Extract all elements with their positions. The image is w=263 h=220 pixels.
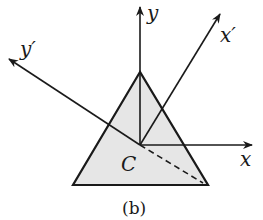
label-x-prime: x′ — [220, 23, 236, 47]
label-y-prime: y′ — [19, 37, 36, 61]
label-y: y — [146, 1, 159, 25]
y-prime-axis — [9, 59, 140, 145]
x-prime-axis — [140, 14, 220, 145]
coordinate-diagram: y x x′ y′ C (b) — [0, 0, 263, 220]
label-centroid: C — [121, 152, 136, 176]
figure-caption: (b) — [122, 198, 146, 218]
label-x: x — [240, 147, 251, 171]
